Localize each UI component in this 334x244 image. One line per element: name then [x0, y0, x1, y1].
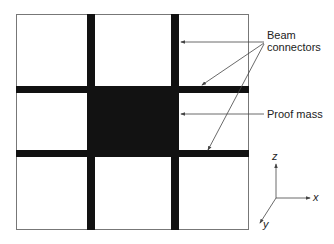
y-axis-label: y — [263, 218, 269, 230]
beam-connectors-label-line1: Beam — [267, 29, 321, 41]
beam-connectors-label-line2: connectors — [267, 41, 321, 53]
z-axis-label: z — [272, 150, 278, 162]
proof-mass-label: Proof mass — [267, 108, 323, 120]
x-axis-label: x — [313, 191, 319, 203]
proof-mass — [87, 86, 179, 157]
beam-connectors-label: Beam connectors — [267, 29, 321, 53]
